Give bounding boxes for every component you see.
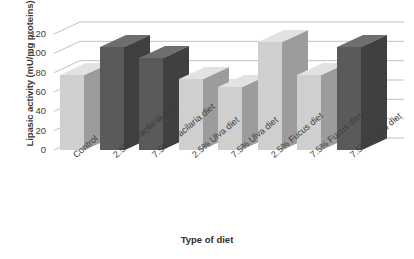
bar	[60, 75, 84, 150]
bar-top-face	[258, 29, 308, 43]
bar-top-face	[139, 45, 189, 59]
y-tick-label: 120	[18, 29, 46, 39]
bar-top-face	[337, 34, 387, 48]
bar	[100, 47, 124, 150]
x-axis-tick-labels: Control2.5% Gracilaria diet7.5% Gracilar…	[0, 150, 414, 230]
y-tick-label: 100	[18, 48, 46, 58]
x-axis-title: Type of diet	[0, 234, 414, 245]
y-tick-label: 80	[18, 68, 46, 78]
y-tick-label: 60	[18, 87, 46, 97]
y-tick-label: 20	[18, 126, 46, 136]
y-tick-label: 40	[18, 106, 46, 116]
bar-front-face	[60, 75, 84, 150]
bar-front-face	[100, 47, 124, 150]
bar-chart: Lipasic activity (mU/mg proteins) 020406…	[0, 0, 414, 259]
